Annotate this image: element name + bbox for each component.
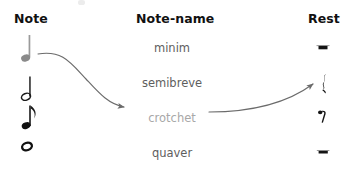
crotchet-note-icon[interactable] <box>20 35 31 63</box>
semibreve-rest-icon[interactable] <box>317 150 330 154</box>
minim-note-icon[interactable] <box>20 77 31 102</box>
semibreve-note-icon[interactable] <box>21 141 33 151</box>
music-glyph-layer <box>0 0 345 169</box>
quaver-rest-icon[interactable] <box>318 111 326 123</box>
diagram-canvas: Note Note-name Rest minim semibreve crot… <box>0 0 345 169</box>
minim-rest-icon[interactable] <box>317 45 330 49</box>
quaver-note-icon[interactable] <box>21 106 36 131</box>
crotchet-rest-icon[interactable] <box>322 74 325 93</box>
